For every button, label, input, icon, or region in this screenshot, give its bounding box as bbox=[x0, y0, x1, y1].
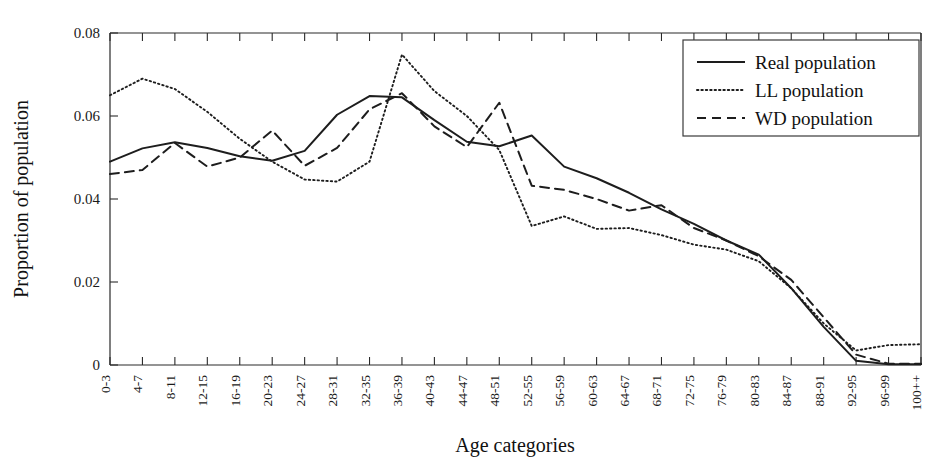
x-tick-label: 56-59 bbox=[552, 375, 567, 407]
x-tick-label: 48-51 bbox=[487, 375, 502, 407]
x-tick-label: 12-15 bbox=[195, 375, 210, 407]
legend-label: LL population bbox=[755, 80, 864, 101]
y-tick-label: 0 bbox=[93, 357, 101, 373]
x-tick-label: 24-27 bbox=[293, 375, 308, 407]
x-tick-label: 20-23 bbox=[260, 375, 275, 407]
y-tick-label: 0.08 bbox=[74, 25, 100, 41]
x-tick-labels: 0-34-78-1112-1516-1920-2324-2728-3132-35… bbox=[98, 375, 924, 411]
x-tick-label: 8-11 bbox=[163, 375, 178, 399]
y-axis-ticks bbox=[110, 33, 118, 365]
x-tick-label: 52-55 bbox=[520, 375, 535, 407]
x-tick-label: 0-3 bbox=[98, 375, 113, 393]
x-tick-label: 4-7 bbox=[130, 375, 145, 393]
x-tick-label: 88-91 bbox=[812, 375, 827, 407]
x-tick-label: 64-67 bbox=[617, 375, 632, 407]
x-tick-label: 72-75 bbox=[682, 375, 697, 407]
y-tick-label: 0.06 bbox=[74, 108, 101, 124]
x-tick-label: 32-35 bbox=[358, 375, 373, 407]
y-axis-title: Proportion of population bbox=[10, 100, 33, 298]
legend-label: WD population bbox=[755, 108, 873, 129]
x-tick-label: 60-63 bbox=[585, 375, 600, 407]
y-tick-labels: 00.020.040.060.08 bbox=[74, 25, 101, 373]
x-tick-label: 68-71 bbox=[649, 375, 664, 407]
x-tick-label: 28-31 bbox=[325, 375, 340, 407]
y-tick-label: 0.02 bbox=[74, 274, 100, 290]
legend: Real populationLL populationWD populatio… bbox=[683, 40, 919, 136]
x-tick-label: 76-79 bbox=[714, 375, 729, 407]
x-tick-label: 84-87 bbox=[779, 375, 794, 407]
chart-canvas: 00.020.040.060.08 0-34-78-1112-1516-1920… bbox=[0, 0, 942, 468]
y-tick-label: 0.04 bbox=[74, 191, 101, 207]
x-tick-label: 16-19 bbox=[228, 375, 243, 407]
x-tick-label: 44-47 bbox=[455, 375, 470, 407]
x-axis-title: Age categories bbox=[455, 434, 575, 457]
x-tick-label: 92-95 bbox=[844, 375, 859, 407]
legend-label: Real population bbox=[755, 52, 876, 73]
chart-figure: 00.020.040.060.08 0-34-78-1112-1516-1920… bbox=[0, 0, 942, 468]
x-tick-label: 40-43 bbox=[422, 375, 437, 407]
x-tick-label: 80-83 bbox=[747, 375, 762, 407]
x-tick-label: 100++ bbox=[909, 375, 924, 410]
x-tick-label: 96-99 bbox=[877, 375, 892, 407]
x-tick-label: 36-39 bbox=[390, 375, 405, 407]
